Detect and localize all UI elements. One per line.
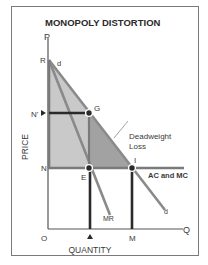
label-g: G <box>94 104 100 113</box>
label-demand-top: d <box>57 59 61 68</box>
label-e: E <box>81 173 86 182</box>
label-mr: MR <box>103 215 114 222</box>
n-prime-arrow-icon <box>41 110 46 116</box>
point-e <box>86 165 93 172</box>
label-demand-bottom: d <box>164 208 168 215</box>
label-m: M <box>129 234 136 243</box>
label-i: I <box>134 156 136 165</box>
label-ac-mc: AC and MC <box>148 171 189 180</box>
deadweight-label-line1: Deadweight <box>129 132 172 141</box>
monopoly-output-marker-icon <box>87 234 93 239</box>
label-n: N <box>41 164 47 173</box>
y-axis-letter: P <box>44 32 50 42</box>
deadweight-label-line2: Loss <box>129 142 146 151</box>
x-axis-letter: Q <box>183 225 190 235</box>
label-n-prime: N' <box>31 110 39 119</box>
y-axis-label: PRICE <box>20 134 30 160</box>
point-i <box>129 165 136 172</box>
monopoly-diagram: MONOPOLY DISTORTION P R d N' G N E I Dea… <box>0 0 208 265</box>
point-g <box>86 110 93 117</box>
deadweight-leader-line <box>114 121 128 138</box>
figure-title: MONOPOLY DISTORTION <box>45 17 161 28</box>
x-axis-label: QUANTITY <box>69 245 112 255</box>
label-r: R <box>40 56 46 65</box>
label-origin: O <box>41 234 47 243</box>
